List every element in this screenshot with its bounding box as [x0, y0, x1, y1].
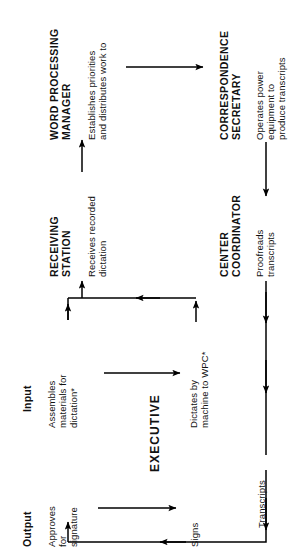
action-signs: Signs [189, 523, 200, 547]
action-receives-dictation: Receives recorded dictation [86, 196, 108, 277]
action-assembles-materials: Assembles materials for dictation* [46, 374, 80, 428]
flowchart-diagram: WORD PROCESSING MANAGER Establishes prio… [0, 0, 300, 555]
action-transcripts: Transcripts [256, 480, 267, 528]
action-approves-signature: Approves for signature [46, 506, 80, 547]
role-word-processing-manager: WORD PROCESSING MANAGER [48, 29, 73, 140]
action-establishes-priorities: Establishes priorities and distributes w… [86, 43, 108, 140]
label-input: Input [21, 385, 33, 412]
role-center-coordinator: CENTER COORDINATOR [218, 195, 243, 277]
role-correspondence-secretary: CORRESPONDENCE SECRETARY [218, 31, 243, 140]
action-operates-equipment: Operates power equipment to produce tran… [254, 57, 288, 140]
arrow-transcripts-return-loop [68, 470, 266, 542]
role-receiving-station: RECEIVING STATION [48, 216, 73, 277]
label-output: Output [21, 511, 33, 547]
arrow-dictation-loop [68, 281, 196, 322]
action-dictates-by-machine: Dictates by machine to WPC* [188, 352, 210, 428]
action-proofreads-transcripts: Proofreads transcripts [254, 230, 276, 277]
label-executive: EXECUTIVE [148, 394, 162, 472]
